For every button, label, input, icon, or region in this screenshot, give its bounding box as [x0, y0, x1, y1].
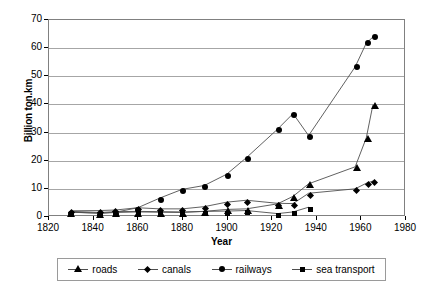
- data-point-railways: [158, 197, 164, 203]
- data-point-sea-transport: [225, 211, 230, 216]
- data-point-railways: [180, 188, 186, 194]
- x-tick-mark: [405, 216, 406, 220]
- plot-area: [48, 19, 405, 216]
- data-point-roads: [371, 102, 379, 109]
- data-point-railways: [276, 127, 282, 133]
- y-tick-label: 50: [2, 70, 42, 80]
- x-tick-mark: [93, 216, 94, 220]
- data-point-railways: [354, 64, 360, 70]
- data-point-canals: [353, 187, 360, 194]
- chart-container: Billion ton.km 010203040506070 182018401…: [0, 0, 443, 290]
- x-tick-label: 1940: [296, 223, 336, 233]
- y-tick-label: 60: [2, 42, 42, 52]
- x-tick-mark: [48, 216, 49, 220]
- data-point-canals: [307, 192, 314, 199]
- data-point-railways: [307, 134, 313, 140]
- data-point-sea-transport: [245, 210, 250, 215]
- data-point-sea-transport: [158, 211, 163, 216]
- data-point-roads: [353, 164, 361, 171]
- x-tick-mark: [360, 216, 361, 220]
- x-tick-label: 1880: [162, 223, 202, 233]
- data-point-roads: [306, 181, 314, 188]
- x-tick-label: 1900: [207, 223, 247, 233]
- legend-item-sea-transport[interactable]: sea transport: [292, 264, 374, 275]
- data-point-canals: [291, 202, 298, 209]
- y-tick-label: 40: [2, 98, 42, 108]
- legend-label: roads: [92, 264, 117, 275]
- data-point-canals: [371, 179, 378, 186]
- legend-item-roads[interactable]: roads: [68, 264, 117, 275]
- data-point-railways: [291, 112, 297, 118]
- data-point-sea-transport: [292, 211, 297, 216]
- x-tick-mark: [227, 216, 228, 220]
- x-tick-label: 1980: [385, 223, 425, 233]
- data-point-sea-transport: [69, 211, 74, 216]
- x-tick-label: 1860: [117, 223, 157, 233]
- x-tick-label: 1960: [340, 223, 380, 233]
- data-point-sea-transport: [276, 213, 281, 218]
- x-tick-mark: [271, 216, 272, 220]
- data-point-sea-transport: [308, 207, 313, 212]
- diamond-marker-icon: [138, 265, 158, 274]
- legend-label: sea transport: [316, 264, 374, 275]
- data-point-railways: [372, 34, 378, 40]
- square-marker-icon: [292, 265, 312, 274]
- y-tick-label: 30: [2, 127, 42, 137]
- legend-label: railways: [236, 264, 272, 275]
- data-point-roads: [364, 135, 372, 142]
- y-tick-label: 0: [2, 211, 42, 221]
- y-tick-label: 10: [2, 183, 42, 193]
- x-tick-mark: [137, 216, 138, 220]
- data-point-roads: [290, 194, 298, 201]
- x-tick-label: 1840: [73, 223, 113, 233]
- data-point-railways: [225, 173, 231, 179]
- data-point-railways: [365, 40, 371, 46]
- x-tick-mark: [182, 216, 183, 220]
- data-point-canals: [244, 199, 251, 206]
- x-tick-label: 1820: [28, 223, 68, 233]
- x-tick-label: 1920: [251, 223, 291, 233]
- data-point-railways: [202, 184, 208, 190]
- y-tick-label: 20: [2, 155, 42, 165]
- data-point-sea-transport: [98, 212, 103, 217]
- y-tick-label: 70: [2, 14, 42, 24]
- circle-marker-icon: [212, 265, 232, 274]
- data-point-railways: [245, 156, 251, 162]
- triangle-marker-icon: [68, 265, 88, 274]
- legend-item-railways[interactable]: railways: [212, 264, 272, 275]
- chart-legend: roadscanalsrailwayssea transport: [57, 258, 386, 281]
- data-point-sea-transport: [113, 211, 118, 216]
- legend-item-canals[interactable]: canals: [138, 264, 191, 275]
- legend-label: canals: [162, 264, 191, 275]
- series-markers: [49, 20, 404, 215]
- x-tick-mark: [316, 216, 317, 220]
- x-axis-title: Year: [0, 236, 443, 247]
- data-point-sea-transport: [203, 211, 208, 216]
